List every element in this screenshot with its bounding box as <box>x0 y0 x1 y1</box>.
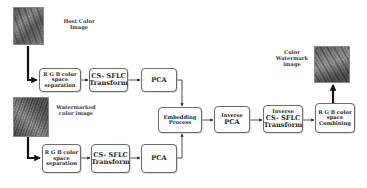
embedding-process-box: Embedding Process <box>158 107 202 133</box>
bottom-rgb-separation-box: R G B color space separation <box>42 144 81 173</box>
box-text: PCA <box>151 77 166 84</box>
box-text: Transform <box>264 122 302 129</box>
watermarked-image-label: Watermarked color image <box>55 105 97 117</box>
rgb-combining-box: R G B color space Combining <box>315 103 355 133</box>
inverse-cs-sflc-transform-box: Inverse CS- SFLC Transform <box>263 105 303 133</box>
label-line: Image <box>70 24 88 30</box>
box-text: Process <box>169 120 191 125</box>
bottom-cs-sflc-transform-box: CS- SFLC Transform <box>91 144 130 173</box>
color-watermark-output-image <box>314 46 350 83</box>
top-pca-box: PCA <box>141 68 177 92</box>
label-line: image <box>283 61 301 67</box>
box-text: PCA <box>224 119 239 126</box>
inverse-pca-box: Inverse PCA <box>214 106 250 133</box>
color-watermark-image-label: Color Watermark image <box>274 50 310 68</box>
host-image-label: Host Color Image <box>60 19 98 31</box>
box-text: Combining <box>319 121 351 126</box>
top-cs-sflc-transform-box: CS- SFLC Transform <box>89 68 128 92</box>
host-color-image <box>13 7 44 45</box>
watermarked-color-image <box>13 97 49 137</box>
box-text: separation <box>46 161 77 166</box>
label-line: color image <box>59 110 93 116</box>
bottom-pca-box: PCA <box>141 144 177 173</box>
box-text: PCA <box>151 155 166 162</box>
box-text: Transform <box>91 159 129 166</box>
box-text: separation <box>45 83 76 88</box>
box-text: Transform <box>89 80 127 87</box>
top-rgb-separation-box: R G B color space separation <box>39 68 81 92</box>
